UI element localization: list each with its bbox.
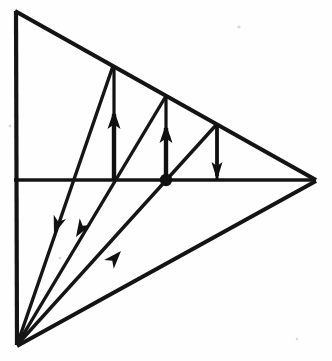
pivot-point-dot xyxy=(160,174,172,186)
speck xyxy=(296,338,299,341)
speck xyxy=(59,257,62,260)
figure-root xyxy=(0,0,332,361)
vector-diagram xyxy=(0,0,332,361)
speck xyxy=(237,25,240,28)
speck xyxy=(9,125,12,128)
left-vertical-edge xyxy=(16,11,17,345)
